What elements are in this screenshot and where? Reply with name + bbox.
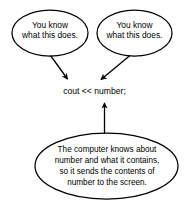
bubble-top-right-outline: [97, 10, 172, 56]
arrow-right-bubble-to-code: [101, 56, 130, 80]
bubble-top-left-outline: [12, 10, 88, 56]
bubble-bottom-outline: [35, 133, 178, 199]
arrow-left-bubble-to-code: [51, 56, 68, 80]
diagram-graphics-layer: [0, 0, 189, 209]
diagram-canvas: You know what this does. You know what t…: [0, 0, 189, 209]
code-statement: cout << number;: [0, 86, 189, 96]
